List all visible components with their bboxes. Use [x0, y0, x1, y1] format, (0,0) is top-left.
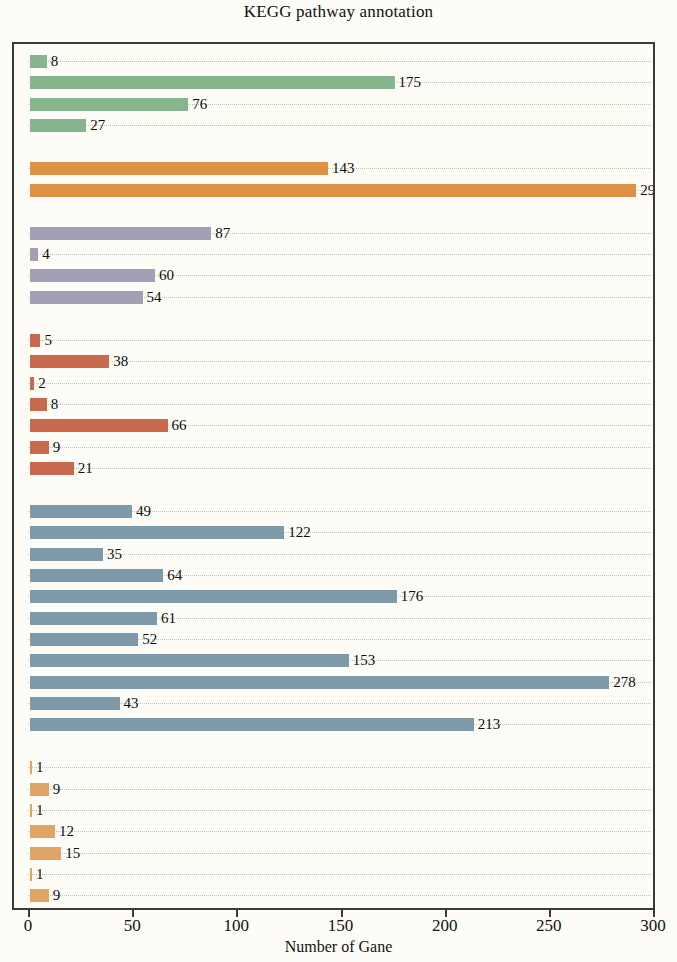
bar-value-label: 38 — [113, 350, 128, 372]
x-tick-label-50: 50 — [124, 916, 141, 936]
bar-value-label: 12 — [59, 820, 74, 842]
bar-value-label: 76 — [192, 93, 207, 115]
bar-value-label: 143 — [332, 157, 355, 179]
gridline — [28, 853, 651, 855]
bar-row: 27 — [14, 117, 653, 135]
bar-value-label: 153 — [353, 649, 376, 671]
x-tick-label-100: 100 — [224, 916, 250, 936]
bar-row: 64 — [14, 567, 653, 585]
bar-value-label: 1 — [36, 863, 44, 885]
bar-value-label: 64 — [167, 564, 182, 586]
page-title: KEGG pathway annotation — [0, 2, 677, 22]
bar-group-blue-6 — [30, 633, 138, 646]
bar-value-label: 1 — [36, 799, 44, 821]
bar-value-label: 176 — [401, 585, 424, 607]
bar-value-label: 8 — [51, 50, 59, 72]
bar-row: 5 — [14, 332, 653, 350]
bar-value-label: 43 — [124, 692, 139, 714]
bar-row: 143 — [14, 160, 653, 178]
bar-row: 291 — [14, 182, 653, 200]
gridline — [28, 447, 651, 449]
bar-row: 66 — [14, 417, 653, 435]
bar-row: 213 — [14, 716, 653, 734]
x-tick-label-200: 200 — [432, 916, 458, 936]
bar-group-orange-bottom-1 — [30, 783, 49, 796]
bar-row: 49 — [14, 503, 653, 521]
bar-group-blue-0 — [30, 505, 132, 518]
bar-group-purple-3 — [30, 291, 143, 304]
bar-row: 175 — [14, 74, 653, 92]
bar-row: 4 — [14, 246, 653, 264]
x-tick-label-300: 300 — [640, 916, 666, 936]
bar-row: 12 — [14, 823, 653, 841]
bar-group-terracotta-5 — [30, 441, 49, 454]
bar-value-label: 54 — [147, 286, 162, 308]
bar-value-label: 9 — [53, 778, 61, 800]
bar-row: 60 — [14, 267, 653, 285]
bar-group-purple-1 — [30, 248, 38, 261]
bar-group-blue-9 — [30, 697, 120, 710]
bar-group-orange-top-0 — [30, 162, 328, 175]
bar-row: 2 — [14, 375, 653, 393]
gridline — [28, 703, 651, 705]
bar-value-label: 5 — [44, 329, 52, 351]
gridline — [28, 340, 651, 342]
bar-value-label: 278 — [613, 671, 636, 693]
bar-group-blue-4 — [30, 590, 397, 603]
bar-group-purple-0 — [30, 227, 211, 240]
x-tick-label-150: 150 — [328, 916, 354, 936]
bar-row: 8 — [14, 396, 653, 414]
gridline — [28, 254, 651, 256]
bar-row: 122 — [14, 524, 653, 542]
bar-value-label: 213 — [478, 713, 501, 735]
bar-row: 35 — [14, 546, 653, 564]
gridline — [28, 895, 651, 897]
bar-group-blue-2 — [30, 548, 103, 561]
bar-value-label: 9 — [53, 436, 61, 458]
bar-group-orange-bottom-6 — [30, 889, 49, 902]
bar-value-label: 4 — [42, 243, 50, 265]
bar-row: 153 — [14, 652, 653, 670]
bar-group-terracotta-4 — [30, 419, 168, 432]
gridline — [28, 468, 651, 470]
gridline — [28, 404, 651, 406]
bar-value-label: 60 — [159, 264, 174, 286]
bar-row: 278 — [14, 674, 653, 692]
gridline — [28, 61, 651, 63]
bar-value-label: 15 — [65, 842, 80, 864]
bar-group-orange-top-1 — [30, 184, 636, 197]
bar-value-label: 27 — [90, 114, 105, 136]
bar-group-orange-bottom-3 — [30, 825, 55, 838]
bar-group-purple-2 — [30, 269, 155, 282]
bar-value-label: 52 — [142, 628, 157, 650]
bar-value-label: 9 — [53, 884, 61, 906]
bar-group-orange-bottom-0 — [30, 761, 32, 774]
bar-group-green-3 — [30, 119, 86, 132]
bar-value-label: 35 — [107, 543, 122, 565]
bar-group-terracotta-0 — [30, 334, 40, 347]
bar-group-green-2 — [30, 98, 188, 111]
x-tick-label-250: 250 — [536, 916, 562, 936]
bar-row: 9 — [14, 439, 653, 457]
gridline — [28, 789, 651, 791]
bar-value-label: 8 — [51, 393, 59, 415]
x-axis-tick-labels: 050100150200250300 — [12, 916, 655, 940]
bar-row: 1 — [14, 802, 653, 820]
bar-row: 176 — [14, 588, 653, 606]
bar-value-label: 291 — [640, 179, 655, 201]
bar-group-blue-10 — [30, 718, 474, 731]
bar-group-terracotta-3 — [30, 398, 47, 411]
bar-row: 8 — [14, 53, 653, 71]
bar-row: 76 — [14, 96, 653, 114]
bar-value-label: 175 — [399, 71, 422, 93]
bar-group-green-0 — [30, 55, 47, 68]
bar-group-orange-bottom-2 — [30, 804, 32, 817]
bar-row: 9 — [14, 781, 653, 799]
bar-group-blue-7 — [30, 654, 349, 667]
gridline — [28, 125, 651, 127]
bar-value-label: 1 — [36, 756, 44, 778]
bar-value-label: 49 — [136, 500, 151, 522]
bar-group-orange-bottom-4 — [30, 847, 61, 860]
bar-group-blue-5 — [30, 612, 157, 625]
bar-row: 38 — [14, 353, 653, 371]
